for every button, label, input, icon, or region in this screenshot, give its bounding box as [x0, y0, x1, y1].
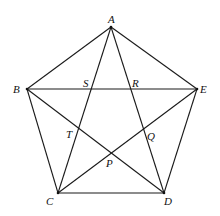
pentagon-diagram: ABCDESRTQP: [0, 0, 220, 216]
side-ea: [111, 27, 197, 89]
vertex-label-e: E: [199, 83, 207, 95]
vertex-dots-group: [26, 26, 199, 195]
diagonal-ad: [111, 27, 164, 193]
intersection-label-p: P: [105, 157, 113, 169]
diagonal-ac: [58, 27, 111, 193]
side-de: [164, 89, 197, 193]
diagonal-bd: [27, 89, 164, 193]
vertex-label-a: A: [107, 13, 115, 25]
vertex-point-a: [110, 26, 113, 29]
vertex-point-c: [57, 192, 60, 195]
intersection-label-s: S: [83, 77, 89, 89]
vertex-point-d: [163, 192, 166, 195]
intersection-label-q: Q: [147, 130, 155, 142]
side-bc: [27, 89, 58, 193]
vertex-label-b: B: [13, 83, 20, 95]
intersection-label-r: R: [131, 77, 139, 89]
vertex-label-d: D: [163, 195, 172, 207]
vertex-label-c: C: [46, 195, 54, 207]
intersection-label-t: T: [66, 128, 73, 140]
vertex-point-e: [196, 88, 199, 91]
diagonal-ce: [58, 89, 197, 193]
labels-group: ABCDESRTQP: [13, 13, 207, 207]
vertex-point-b: [26, 88, 29, 91]
side-ab: [27, 27, 111, 89]
